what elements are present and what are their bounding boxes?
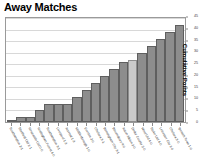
bar bbox=[54, 104, 63, 122]
bar bbox=[119, 62, 128, 122]
bar bbox=[165, 32, 174, 122]
y-tick-label: 40 bbox=[194, 27, 198, 31]
x-label-slot: Sheffield Utd 1-1 bbox=[15, 127, 24, 162]
bar-series bbox=[6, 18, 185, 122]
x-label-slot: West Utd 4-0 bbox=[138, 127, 147, 162]
x-label-slot: Liverpool 1-3 bbox=[53, 127, 62, 162]
x-tick-label: Ipswich Town 1-0 bbox=[177, 127, 192, 151]
x-label-slot: Birmingham City 3-1 bbox=[100, 127, 109, 162]
y-tick-label: 5 bbox=[196, 109, 198, 113]
bar bbox=[16, 117, 25, 122]
y-tick-label: 10 bbox=[194, 98, 198, 102]
x-label-slot: Bloomsbury 4-0 bbox=[110, 127, 119, 162]
bar bbox=[72, 97, 81, 122]
bar bbox=[82, 90, 91, 122]
y-tick-label: 35 bbox=[194, 39, 198, 43]
y-tick-label: 30 bbox=[194, 51, 198, 55]
y-axis-title: Cumulative Points bbox=[178, 17, 192, 123]
x-label-slot: Stoke Utd 4-0 bbox=[147, 127, 156, 162]
bar bbox=[128, 60, 137, 122]
x-label-slot: Chelsea 3-0 bbox=[166, 127, 175, 162]
x-label-slot: Nottingham Forest 4-0 bbox=[34, 127, 43, 162]
x-label-slot: Arsenal 1-3 bbox=[63, 127, 72, 162]
plot-area bbox=[5, 17, 186, 123]
bar bbox=[137, 53, 146, 122]
bar bbox=[7, 120, 16, 122]
x-label-slot: Southampton 3-1 bbox=[44, 127, 53, 162]
x-label-slot: Middlesbrough 1-0 bbox=[72, 127, 81, 162]
bar bbox=[109, 69, 118, 122]
x-label-slot: Derby County 2-0 bbox=[128, 127, 137, 162]
x-label-slot: Southampton 2-1 bbox=[6, 127, 15, 162]
y-tick-label: 45 bbox=[194, 15, 198, 19]
y-tick-label: 15 bbox=[194, 86, 198, 90]
x-label-slot: Everton 2-0 bbox=[81, 127, 90, 162]
x-label-slot: Aston Albion 2-0 bbox=[119, 127, 128, 162]
x-label-slot: Ipswich Town 1-0 bbox=[176, 127, 185, 162]
x-axis-labels: Southampton 2-1Sheffield Utd 1-1Newcastl… bbox=[5, 127, 186, 162]
bar bbox=[35, 110, 44, 122]
bar bbox=[63, 104, 72, 122]
bar bbox=[100, 76, 109, 122]
y-tick-label: 20 bbox=[194, 74, 198, 78]
bar bbox=[26, 117, 35, 122]
bar bbox=[147, 46, 156, 122]
away-matches-chart: Away Matches 051015202530354045 Cumulati… bbox=[0, 0, 211, 162]
x-label-slot: Leicester City 1-0 bbox=[157, 127, 166, 162]
chart-title: Away Matches bbox=[4, 1, 77, 13]
bar bbox=[44, 104, 53, 122]
x-label-slot: Newcastle Utd 0-0 bbox=[25, 127, 34, 162]
bar bbox=[156, 39, 165, 122]
y-tick-label: 25 bbox=[194, 62, 198, 66]
y-tick-label: 0 bbox=[196, 121, 198, 125]
bar bbox=[91, 83, 100, 122]
x-label-slot: Chelsea 3-1 bbox=[91, 127, 100, 162]
